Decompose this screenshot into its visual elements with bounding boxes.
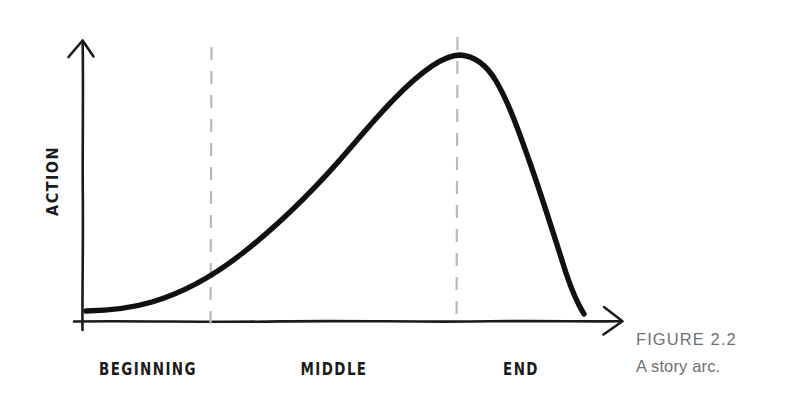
figure-container: ACTION BEGINNING MIDDLE END FIGURE 2.2 A… — [0, 0, 800, 406]
story-arc-curve — [86, 55, 584, 314]
stage-label-end: END — [503, 359, 539, 379]
figure-caption-label: FIGURE 2.2 — [636, 328, 796, 351]
stage-label-beginning: BEGINNING — [99, 359, 197, 379]
figure-caption-text: A story arc. — [636, 355, 796, 378]
divider-beginning-middle — [211, 47, 212, 325]
x-axis-line — [74, 321, 620, 322]
y-axis-title: ACTION — [43, 146, 62, 216]
figure-caption: FIGURE 2.2 A story arc. — [636, 328, 796, 379]
y-axis-line — [82, 42, 83, 330]
stage-label-middle: MIDDLE — [301, 359, 368, 379]
divider-middle-end — [457, 37, 458, 324]
y-axis-arrowhead — [69, 41, 94, 58]
